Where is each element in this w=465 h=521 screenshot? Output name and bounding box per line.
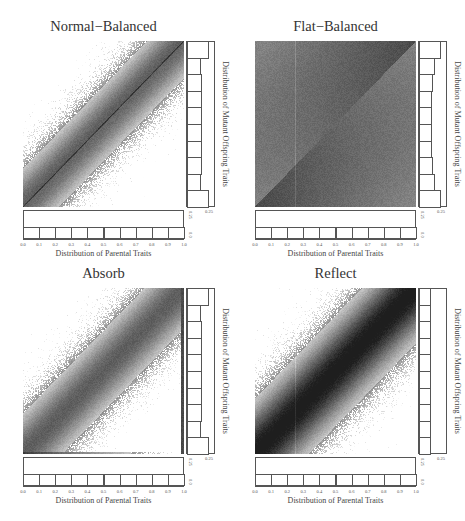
offspring-histogram-bar: [419, 91, 432, 109]
parent-histogram-bar: [55, 227, 72, 239]
y-axis-label: Distribution of Mutant Offspring Traits: [221, 61, 230, 187]
parent-histogram-bar: [23, 227, 40, 239]
offspring-histogram-bar: [187, 190, 209, 208]
offspring-histogram-bar: [187, 354, 202, 372]
offspring-histogram-bar: [419, 174, 435, 192]
offspring-histogram-bar: [419, 58, 435, 76]
x-tick-label: 0.6: [117, 489, 123, 494]
offspring-histogram-bar: [187, 58, 201, 76]
x-tick-label: 0.3: [68, 489, 74, 494]
x-axis-label: Distribution of Parental Traits: [23, 496, 184, 505]
parent-histogram-bar: [87, 227, 104, 239]
parent-histogram-bar: [368, 474, 385, 486]
parent-histogram-bar: [55, 474, 72, 486]
parent-histogram-bar: [136, 227, 153, 239]
density-plot: [23, 288, 184, 454]
parent-histogram-tick-min: 0.0: [188, 479, 193, 485]
offspring-histogram-bar: [187, 174, 201, 192]
panel-normal-balanced: Normal−Balanced 0.25 0.25 0.0 0.00.10.20…: [0, 0, 232, 260]
y-axis-label: Distribution of Mutant Offspring Traits: [453, 61, 462, 187]
parent-histogram-bar: [39, 227, 56, 239]
parent-histogram-tick-min: 0.0: [188, 232, 193, 238]
parent-histogram-bar: [136, 474, 153, 486]
x-tick-label: 0.0: [252, 489, 258, 494]
parent-histogram-bar: [168, 474, 185, 486]
panel-title: Reflect: [255, 265, 416, 282]
density-plot: [23, 41, 184, 207]
parent-histogram-tick-max: 0.25: [188, 211, 193, 219]
offspring-histogram-bar: [187, 107, 202, 125]
offspring-histogram-bar: [187, 404, 202, 422]
offspring-histogram-bar: [419, 371, 431, 389]
parent-histogram-bar: [120, 474, 137, 486]
parent-histogram-bar: [271, 227, 288, 239]
parent-histogram-tick-max: 0.25: [420, 211, 425, 219]
x-tick-label: 0.4: [85, 489, 91, 494]
parent-histogram-bar: [120, 227, 137, 239]
offspring-histogram: [418, 41, 447, 207]
x-axis-label: Distribution of Parental Traits: [255, 496, 416, 505]
parent-histogram-bar: [319, 227, 336, 239]
offspring-histogram-bar: [187, 321, 202, 339]
offspring-histogram-bar: [419, 74, 433, 92]
offspring-histogram-bar: [187, 41, 209, 59]
parent-histogram: [23, 210, 184, 240]
offspring-histogram-bar: [419, 404, 431, 422]
offspring-histogram-bar: [419, 338, 431, 356]
offspring-histogram-bar: [419, 124, 432, 142]
parent-histogram-bar: [255, 474, 272, 486]
y-axis-label: Distribution of Mutant Offspring Traits: [453, 308, 462, 434]
offspring-histogram: [186, 41, 215, 207]
offspring-histogram-bar: [187, 141, 202, 159]
offspring-histogram-bar: [419, 388, 431, 406]
x-tick-label: 0.6: [349, 489, 355, 494]
offspring-histogram-bar: [187, 388, 202, 406]
offspring-histogram-bar: [419, 437, 431, 455]
parent-histogram-bar: [71, 474, 88, 486]
offspring-histogram-bar: [419, 190, 441, 208]
x-tick-label: 0.7: [133, 489, 139, 494]
offspring-histogram-tick: 0.25: [205, 456, 213, 461]
offspring-histogram-bar: [419, 354, 431, 372]
x-tick-label: 0.5: [101, 489, 107, 494]
parent-histogram-tick-max: 0.25: [420, 458, 425, 466]
offspring-histogram-tick: 0.25: [205, 209, 213, 214]
parent-histogram: [255, 210, 416, 240]
offspring-histogram-bar: [187, 437, 209, 455]
offspring-histogram-bar: [419, 421, 431, 439]
offspring-histogram-bar: [187, 74, 202, 92]
parent-histogram-bar: [87, 474, 104, 486]
x-tick-label: 0.3: [300, 489, 306, 494]
x-tick-label: 0.1: [268, 489, 274, 494]
x-tick-label: 0.9: [397, 489, 403, 494]
parent-histogram-bar: [104, 227, 121, 239]
x-tick-label: 0.1: [36, 489, 42, 494]
parent-histogram-bar: [152, 227, 169, 239]
x-tick-label: 0.8: [381, 489, 387, 494]
offspring-histogram-bar: [419, 141, 432, 159]
parent-histogram-bar: [287, 227, 304, 239]
x-tick-label: 0.9: [165, 489, 171, 494]
offspring-histogram-bar: [187, 371, 202, 389]
density-plot: [255, 41, 416, 207]
panel-absorb: Absorb 0.25 0.25 0.0 0.00.10.20.30.40.50…: [0, 247, 232, 507]
x-tick-label: 0.5: [333, 489, 339, 494]
parent-histogram-bar: [336, 474, 353, 486]
parent-histogram-tick-min: 0.0: [420, 232, 425, 238]
x-tick-label: 0.4: [317, 489, 323, 494]
panel-title: Normal−Balanced: [23, 18, 184, 35]
parent-histogram-bar: [352, 474, 369, 486]
offspring-histogram-tick: 0.25: [437, 209, 445, 214]
offspring-histogram-bar: [187, 124, 202, 142]
parent-histogram-tick-max: 0.25: [188, 458, 193, 466]
offspring-histogram-bar: [187, 157, 202, 175]
parent-histogram: [23, 457, 184, 487]
parent-histogram-bar: [271, 474, 288, 486]
offspring-histogram-bar: [419, 107, 432, 125]
offspring-histogram-bar: [419, 288, 431, 306]
offspring-histogram-bar: [419, 321, 431, 339]
parent-histogram-bar: [255, 227, 272, 239]
y-axis-label: Distribution of Mutant Offspring Traits: [221, 308, 230, 434]
density-plot: [255, 288, 416, 454]
offspring-histogram-bar: [187, 421, 201, 439]
